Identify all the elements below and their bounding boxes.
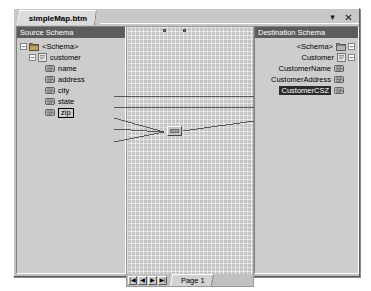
page-tab-label: Page 1	[181, 276, 205, 285]
source-schema-header: Source Schema	[17, 27, 125, 38]
concatenate-functoid[interactable]	[167, 126, 182, 136]
tree-node-label: address	[58, 75, 85, 84]
tree-node-customer[interactable]: Customer −	[255, 52, 355, 63]
field-icon	[45, 64, 55, 73]
close-icon[interactable]: ✕	[343, 12, 354, 23]
map-editor-window: simpleMap.btm ▾ ✕ Source Schema −	[13, 8, 360, 277]
destination-schema-header: Destination Schema	[255, 27, 358, 38]
field-icon	[334, 64, 344, 73]
record-icon	[38, 53, 47, 62]
tree-node-label: city	[58, 86, 69, 95]
tree-node-customername[interactable]: CustomerName	[255, 63, 355, 74]
tree-node-city[interactable]: city	[20, 85, 125, 96]
window-title-bar: simpleMap.btm ▾ ✕	[14, 9, 359, 26]
field-icon	[45, 75, 55, 84]
functoid-glyph	[170, 129, 179, 133]
record-icon	[337, 53, 346, 62]
field-icon	[45, 97, 55, 106]
field-icon	[334, 75, 344, 84]
tree-node-state[interactable]: zip state	[20, 96, 125, 107]
source-schema-body[interactable]: − <Schema> − customer	[17, 38, 125, 273]
tree-node-label: name	[58, 64, 77, 73]
tree-node-label: Customer	[301, 53, 334, 62]
source-schema-tree: − <Schema> − customer	[17, 38, 125, 118]
field-icon	[45, 86, 55, 95]
document-tab[interactable]: simpleMap.btm	[17, 10, 97, 25]
folder-icon	[29, 42, 39, 51]
page-tab[interactable]: Page 1	[170, 274, 214, 286]
tree-node-label: <Schema>	[42, 42, 78, 51]
tree-node-label: CustomerAddress	[271, 75, 331, 84]
functoid-input-nub[interactable]	[163, 29, 166, 32]
source-schema-pane: Source Schema − <Schema> −	[16, 26, 126, 274]
minimize-icon[interactable]: ▾	[327, 12, 338, 23]
tree-node-customer[interactable]: − customer	[20, 52, 125, 63]
functoid-output-nub[interactable]	[183, 29, 186, 32]
tree-node-label: <Schema>	[297, 42, 333, 51]
expander-icon[interactable]: −	[29, 54, 36, 61]
tree-node-schema[interactable]: − <Schema>	[20, 41, 125, 52]
expander-icon[interactable]: −	[20, 43, 27, 50]
mapping-canvas[interactable]	[126, 26, 254, 274]
destination-schema-pane: Destination Schema <Schema> − Customer	[254, 26, 359, 274]
expander-icon[interactable]: −	[348, 43, 355, 50]
last-page-button[interactable]: ▶|	[158, 276, 167, 285]
canvas-grid	[127, 27, 253, 274]
tree-node-customercsz[interactable]: CustomerCSZ	[255, 85, 355, 96]
tree-node-zip[interactable]: zip	[20, 107, 125, 118]
document-tab-label: simpleMap.btm	[29, 14, 87, 23]
tree-node-label: customer	[50, 53, 81, 62]
field-icon	[45, 108, 55, 117]
tree-node-schema[interactable]: <Schema> −	[255, 41, 355, 52]
tree-node-label: CustomerCSZ	[279, 86, 331, 95]
tree-node-name[interactable]: name	[20, 63, 125, 74]
editor-client-area: Source Schema − <Schema> −	[16, 26, 359, 276]
field-icon	[334, 86, 344, 95]
destination-schema-tree: <Schema> − Customer −	[255, 38, 358, 96]
page-navigation-bar: |◀ ◀ ▶ ▶| Page 1	[126, 274, 254, 287]
expander-icon[interactable]: −	[348, 54, 355, 61]
tree-node-address[interactable]: address	[20, 74, 125, 85]
tree-node-label: zip	[58, 108, 74, 118]
previous-page-button[interactable]: ◀	[138, 276, 147, 285]
tree-node-label: CustomerName	[278, 64, 331, 73]
destination-schema-body[interactable]: <Schema> − Customer −	[255, 38, 358, 273]
tree-node-customeraddress[interactable]: CustomerAddress	[255, 74, 355, 85]
tree-node-label: state	[58, 97, 74, 106]
next-page-button[interactable]: ▶	[148, 276, 157, 285]
folder-icon	[336, 42, 346, 51]
first-page-button[interactable]: |◀	[128, 276, 137, 285]
